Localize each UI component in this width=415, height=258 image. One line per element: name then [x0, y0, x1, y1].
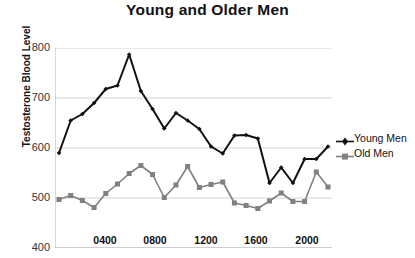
series-young-men — [57, 52, 331, 185]
chart-figure: Young and Older Men Testosterone Blood L… — [0, 0, 415, 258]
y-tick-label-800: 800 — [16, 41, 50, 53]
chart-canvas — [55, 48, 332, 248]
y-tick-label-700: 700 — [16, 91, 50, 103]
legend: Young Men Old Men — [336, 131, 415, 161]
series-old-men — [57, 163, 331, 211]
y-tick-label-500: 500 — [16, 191, 50, 203]
legend-label-young-men: Young Men — [354, 133, 407, 144]
legend-item-old-men[interactable]: Old Men — [336, 146, 415, 161]
page-title: Young and Older Men — [0, 1, 415, 19]
legend-item-young-men[interactable]: Young Men — [336, 131, 415, 146]
square-marker-icon — [336, 148, 354, 159]
plot-area — [55, 48, 332, 248]
gridlines — [55, 48, 332, 248]
legend-label-old-men: Old Men — [354, 148, 394, 159]
y-tick-label-600: 600 — [16, 141, 50, 153]
diamond-marker-icon — [336, 133, 354, 144]
y-tick-label-400: 400 — [16, 241, 50, 253]
